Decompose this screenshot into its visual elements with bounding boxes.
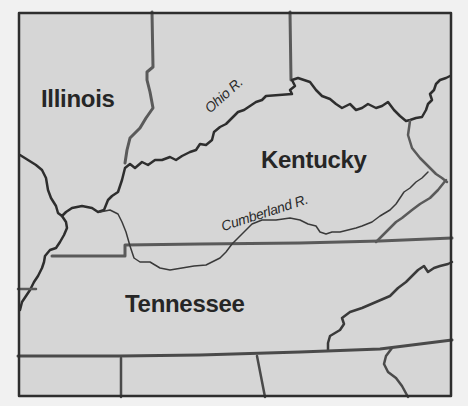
map-svg — [0, 0, 468, 406]
state-label-tennessee: Tennessee — [125, 290, 245, 318]
virginia-border — [376, 180, 446, 242]
tennessee-north-carolina-border — [328, 262, 452, 350]
illinois-indiana-border — [125, 12, 153, 163]
mississippi-river — [20, 216, 67, 310]
state-label-illinois: Illinois — [41, 85, 115, 113]
state-label-kentucky: Kentucky — [261, 146, 367, 174]
alabama-georgia-border — [257, 356, 265, 397]
georgia-south-carolina-border — [384, 348, 408, 397]
indiana-ohio-border — [290, 12, 291, 80]
map-frame-border — [19, 13, 451, 396]
kentucky-tennessee-border — [52, 238, 452, 256]
